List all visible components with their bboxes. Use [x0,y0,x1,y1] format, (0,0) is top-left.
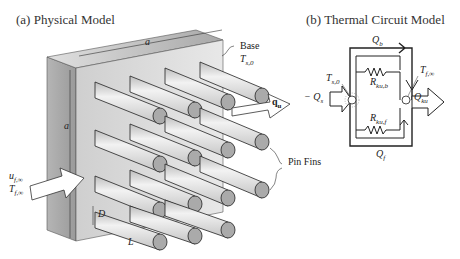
label-q: qu [272,96,281,110]
label-qs: − Qs [304,91,323,105]
label-qku: Qku [414,91,428,105]
label-pin-fins: Pin Fins [288,156,321,167]
label-qf: Qf [376,148,385,162]
label-u-inf: uf,∞ [9,170,23,184]
diagram-canvas [0,0,460,259]
label-tfinf: Tf,∞ [420,64,434,78]
thermal-circuit [350,43,418,146]
label-a-side: a [64,120,69,131]
label-qb: Qb [372,34,383,48]
label-D: D [98,208,105,219]
label-base-temp: Ts,0 [240,53,254,67]
node-ts0 [348,96,356,104]
panel-a-title: (a) Physical Model [16,12,115,28]
label-L: L [128,236,134,247]
label-t-inf: Tf,∞ [9,183,23,197]
base-leader [222,46,234,56]
label-a-top: a [145,36,150,47]
label-ts0: Ts,0 [326,72,340,86]
node-tfinf [402,96,410,104]
label-rkub: Rku,b [370,76,388,90]
label-rkuf: Rku,f [370,112,386,126]
label-base: Base [240,40,259,51]
pin-fins-leader [270,148,282,190]
panel-b-title: (b) Thermal Circuit Model [306,12,445,28]
